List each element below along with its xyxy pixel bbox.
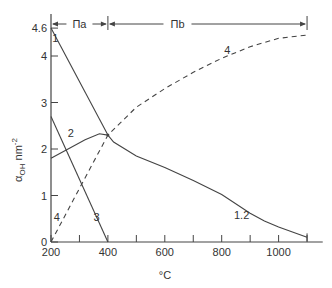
series-line-4 — [51, 35, 307, 242]
series-line-1-2 — [108, 135, 307, 237]
x-axis-label: °C — [159, 269, 171, 281]
plot-area: 2004006008001000012344.6°CαOH nm-2ΠaΠb12… — [10, 14, 323, 281]
curve-label: 1.2 — [234, 209, 249, 221]
curve-label: 4 — [54, 211, 60, 223]
series-line-3 — [51, 116, 108, 242]
chart: 2004006008001000012344.6°CαOH nm-2ΠaΠb12… — [0, 0, 332, 288]
y-axis-label: αOH nm-2 — [10, 138, 27, 182]
y-tick-label: 0 — [41, 236, 47, 248]
arrowhead-left — [52, 22, 58, 27]
series-line-1 — [51, 28, 108, 135]
curve-label: 4 — [224, 44, 230, 56]
series-line-2 — [51, 134, 108, 159]
x-tick-label: 1000 — [266, 246, 290, 258]
region-label: Πb — [170, 18, 184, 30]
curve-label: 3 — [93, 211, 99, 223]
y-tick-label: 4 — [41, 50, 47, 62]
arrowhead-right — [300, 22, 306, 27]
intersection-point — [106, 134, 109, 137]
curve-label: 2 — [68, 127, 74, 139]
arrowhead-left — [109, 22, 115, 27]
region-label: Πa — [72, 18, 87, 30]
curve-label: 1 — [52, 32, 58, 44]
y-tick-label: 2 — [41, 143, 47, 155]
arrowhead-right — [101, 22, 107, 27]
x-tick-label: 600 — [156, 246, 174, 258]
y-tick-label: 4.6 — [32, 22, 47, 34]
x-tick-label: 400 — [99, 246, 117, 258]
y-tick-label: 1 — [41, 190, 47, 202]
x-tick-label: 800 — [213, 246, 231, 258]
y-tick-label: 3 — [41, 97, 47, 109]
